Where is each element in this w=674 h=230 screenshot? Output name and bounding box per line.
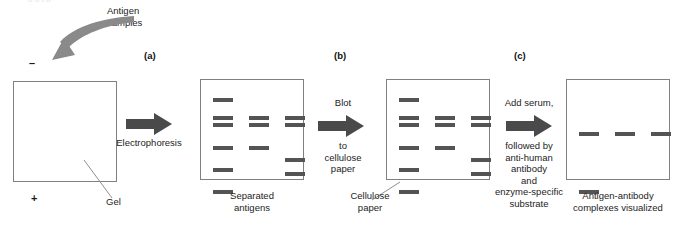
separated-antigens-caption: Separated antigens [195, 190, 309, 213]
blot-label-above: Blot [308, 97, 378, 109]
panel-label-b: (b) [334, 50, 346, 61]
page-scan-artifact: o o t o [0, 0, 674, 6]
visualized-caption: Antigen-antibody complexes visualized [556, 190, 674, 213]
gel-band [471, 116, 491, 120]
blot-arrow [318, 115, 364, 141]
gel-band [249, 123, 269, 127]
gel-band [285, 172, 305, 176]
separated-antigens-plate [200, 79, 304, 180]
gel-band [213, 116, 233, 120]
electrophoresis-arrow [126, 113, 172, 139]
gel-band [471, 123, 491, 127]
gel-band [285, 158, 305, 162]
blot-label-below: to cellulose paper [306, 140, 380, 175]
cellulose-paper-caption: Cellulose paper [330, 190, 410, 213]
gel-band [615, 132, 635, 136]
antigen-samples-curved-arrow [30, 10, 140, 72]
add-serum-label-above: Add serum, [484, 97, 574, 109]
gel-band [435, 123, 455, 127]
gel-band [399, 98, 419, 102]
electrophoresis-label: Electrophoresis [106, 137, 192, 149]
gel-band [285, 123, 305, 127]
panel-label-a: (a) [144, 50, 156, 61]
visualized-plate [566, 79, 670, 180]
gel-label: Gel [106, 196, 121, 208]
gel-band [399, 116, 419, 120]
gel-band [435, 116, 455, 120]
gel-band [435, 146, 455, 150]
scan-artifact-text: o o t o [28, 0, 51, 4]
gel-band [249, 146, 269, 150]
gel-band [213, 146, 233, 150]
gel-band [399, 123, 419, 127]
western-blot-figure: o o t o Antigen samples (a) (b) (c) – + … [0, 0, 674, 230]
gel-band [285, 116, 305, 120]
gel-band [213, 123, 233, 127]
gel-band [651, 132, 671, 136]
negative-pole-label: – [29, 57, 35, 69]
gel-band [579, 132, 599, 136]
panel-label-c: (c) [514, 50, 526, 61]
gel-band [213, 98, 233, 102]
add-serum-arrow [506, 115, 552, 141]
positive-pole-label: + [31, 192, 37, 204]
gel-band [399, 168, 419, 172]
gel-band [213, 168, 233, 172]
cellulose-paper-plate [386, 79, 490, 180]
gel-band [249, 116, 269, 120]
gel-band [399, 146, 419, 150]
